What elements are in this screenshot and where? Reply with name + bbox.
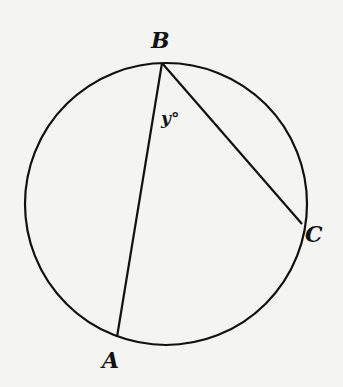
point-label-a: A [100,347,119,373]
angle-label-y: y° [160,108,179,128]
inscribed-angle-diagram: B C A y° [0,0,343,387]
circle [25,63,307,345]
point-label-c: C [305,221,323,247]
chord-ba [117,63,162,337]
chord-bc [162,63,302,224]
point-label-b: B [150,27,170,53]
